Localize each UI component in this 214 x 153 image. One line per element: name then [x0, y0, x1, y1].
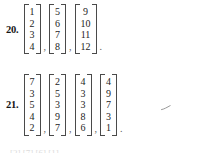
trailing-punctuation: .: [117, 123, 123, 136]
vector-entry: 7: [30, 76, 35, 88]
problem-number-20: 20.: [6, 24, 19, 35]
vector-entry: 4: [30, 41, 35, 53]
vector-separator: ,: [66, 123, 75, 136]
vector-entry: 6: [55, 18, 60, 30]
vector-separator: ,: [41, 41, 50, 54]
vector-entry: 3: [30, 88, 35, 100]
document-page: 20. 1 2 3 4 , 5 6 7 8 , 9 10 11 12: [0, 0, 214, 153]
vector-entry: 7: [55, 29, 60, 41]
vector-entry: 1: [106, 122, 111, 134]
column-vector: 4 3 3 8 6: [75, 74, 92, 136]
vector-group-20: 1 2 3 4 , 5 6 7 8 , 9 10 11 12 .: [24, 4, 103, 54]
vector-entry: 3: [106, 111, 111, 123]
vector-entry: 4: [81, 76, 86, 88]
vector-entry: 6: [81, 122, 86, 134]
vector-entry: 3: [30, 29, 35, 41]
vector-entry: 8: [55, 41, 60, 53]
vector-separator: ,: [66, 41, 75, 54]
vector-entry: 9: [106, 88, 111, 100]
vector-entry: 3: [81, 99, 86, 111]
vector-separator: ,: [92, 123, 101, 136]
vector-entry: 2: [30, 122, 35, 134]
vector-entry: 3: [55, 99, 60, 111]
column-vector: 7 3 5 4 2: [24, 74, 41, 136]
column-vector: 4 9 7 3 1: [100, 74, 117, 136]
vector-entry: 5: [55, 88, 60, 100]
vector-entry: 2: [30, 18, 35, 30]
problem-20: 20. 1 2 3 4 , 5 6 7 8 , 9 10 11 12: [6, 4, 102, 54]
vector-entry: 12: [81, 41, 91, 53]
vector-entry: 5: [30, 99, 35, 111]
column-vector: 5 6 7 8: [49, 4, 66, 54]
vector-entry: 8: [81, 111, 86, 123]
vector-entry: 4: [30, 111, 35, 123]
vector-entry: 9: [83, 6, 88, 18]
vector-entry: 7: [55, 122, 60, 134]
bottom-bleed-text: [2] [7] [6] [1]: [10, 148, 130, 153]
vector-group-21: 7 3 5 4 2 , 2 5 3 9 7 , 4 3 3 8 6: [24, 74, 123, 136]
column-vector: 9 10 11 12: [75, 4, 97, 54]
vector-entry: 3: [81, 88, 86, 100]
vector-separator: ,: [41, 123, 50, 136]
vector-entry: 9: [55, 111, 60, 123]
trailing-punctuation: .: [97, 41, 103, 54]
vector-entry: 2: [55, 76, 60, 88]
problem-21: 21. 7 3 5 4 2 , 2 5 3 9 7 , 4 3 3: [6, 74, 123, 136]
column-vector: 2 5 3 9 7: [49, 74, 66, 136]
problem-number-21: 21.: [6, 99, 19, 110]
vector-entry: 11: [81, 29, 91, 41]
column-vector: 1 2 3 4: [24, 4, 41, 54]
vector-entry: 1: [30, 6, 35, 18]
vector-entry: 4: [106, 76, 111, 88]
scan-smudge-icon: [161, 105, 172, 111]
vector-entry: 5: [55, 6, 60, 18]
vector-entry: 7: [106, 99, 111, 111]
vector-entry: 10: [81, 18, 91, 30]
